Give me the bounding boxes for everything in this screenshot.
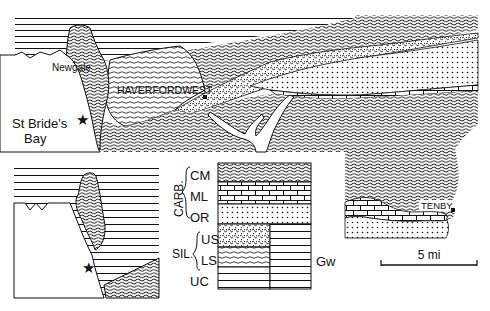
- place-label-tenby: TENBY: [421, 200, 453, 211]
- legend-swatch-ls: [218, 247, 270, 267]
- legend-swatch-gw: [270, 224, 311, 289]
- scale-bar: 5 mi: [381, 248, 477, 266]
- star-icon: ★: [76, 111, 89, 128]
- legend: CM ML OR US LS UC Gw CARB. SIL.: [172, 163, 336, 289]
- legend-label-uc: UC: [190, 274, 209, 289]
- legend-label-or: OR: [190, 210, 210, 225]
- legend-group-sil: SIL.: [172, 247, 193, 261]
- main-map: [0, 15, 478, 152]
- place-label-st-brides-1: St Bride's: [12, 116, 68, 131]
- legend-label-ls: LS: [201, 253, 217, 268]
- geological-map: Newgale HAVERFORDWEST St Bride's Bay ★ +…: [0, 0, 490, 311]
- cross-marker-icon: +: [72, 58, 77, 67]
- place-label-haverfordwest: HAVERFORDWEST: [117, 84, 213, 96]
- legend-swatch-ml: [218, 182, 311, 204]
- legend-swatch-or: [218, 204, 311, 224]
- star-icon-inset: ★: [82, 259, 95, 276]
- legend-swatch-uc: [218, 267, 270, 289]
- scale-bar-label: 5 mi: [418, 248, 441, 262]
- legend-swatch-us: [218, 224, 270, 247]
- inset-map-tenby: TENBY: [345, 150, 459, 238]
- legend-group-carb: CARB.: [172, 180, 186, 217]
- place-label-st-brides-2: Bay: [24, 131, 47, 146]
- town-marker-tenby: [451, 208, 455, 212]
- inset-map-left: ★: [14, 164, 159, 298]
- legend-swatch-cm: [218, 163, 311, 182]
- town-marker-haverfordwest: [203, 95, 207, 99]
- legend-label-cm: CM: [190, 168, 210, 183]
- legend-label-ml: ML: [190, 189, 208, 204]
- legend-label-us: US: [201, 232, 219, 247]
- legend-label-gw: Gw: [316, 254, 336, 269]
- legend-brace-sil: [193, 232, 200, 270]
